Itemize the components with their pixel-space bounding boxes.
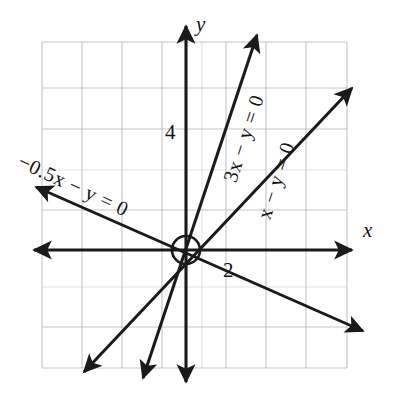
y-tick-label-4: 4 [165, 120, 176, 145]
x-tick-label-2: 2 [223, 258, 234, 283]
graph-canvas [0, 0, 395, 406]
y-axis-label: y [196, 12, 205, 37]
x-axis-label: x [363, 218, 372, 243]
line-graph-figure: y x 4 2 −0.5x − y = 0 3x − y = 0 x − y =… [0, 0, 395, 406]
line-x-minus-y [84, 88, 352, 372]
